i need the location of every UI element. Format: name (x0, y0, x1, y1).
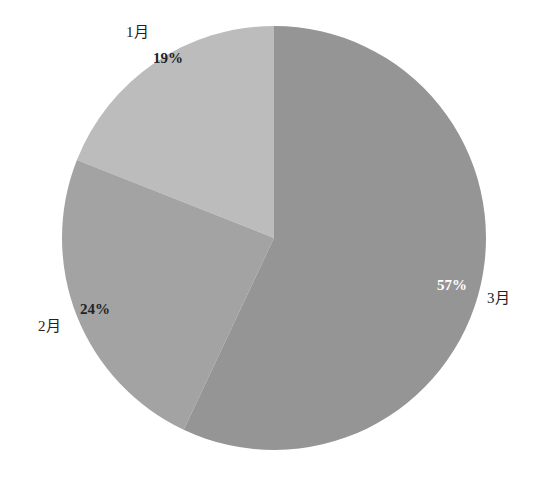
label-feb: 2月 (38, 314, 61, 335)
pct-feb: 24% (80, 301, 110, 318)
pct-mar: 57% (437, 277, 467, 294)
label-jan: 1月 (126, 20, 149, 41)
pct-jan: 19% (153, 50, 183, 67)
label-mar: 3月 (487, 286, 510, 307)
pie-chart (0, 0, 550, 484)
